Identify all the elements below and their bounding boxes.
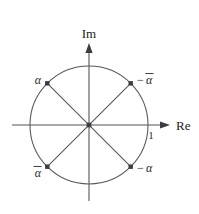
figure-background (0, 0, 199, 214)
point-marker-alpha-bar-lower-left (45, 165, 49, 169)
label-alpha-bar-lower-left: α (34, 166, 42, 180)
point-marker-neg-alpha-lower-right (129, 165, 133, 169)
real-axis-label: Re (176, 118, 191, 133)
complex-plane-figure: Im Re 1 α − α α − α (0, 0, 199, 214)
point-marker-alpha-upper-left (45, 81, 49, 85)
imaginary-axis-label: Im (82, 26, 96, 41)
origin-marker (87, 123, 92, 128)
label-alpha-bar-text: α (35, 166, 42, 180)
label-alpha-upper-left-text: α (35, 73, 42, 87)
label-neg-alpha-prefix: − (137, 161, 144, 175)
point-marker-neg-alpha-bar-upper-right (129, 81, 133, 85)
label-neg-alpha-bar-text: α (146, 73, 153, 87)
label-neg-alpha-bar-upper-right: − α (137, 73, 154, 87)
unit-tick-label: 1 (148, 129, 154, 141)
unit-circle-diagram: Im Re 1 α − α α − α (0, 0, 199, 214)
label-neg-alpha-text: α (146, 161, 153, 175)
label-alpha-upper-left: α (35, 73, 42, 87)
label-neg-alpha-bar-prefix: − (137, 73, 144, 87)
